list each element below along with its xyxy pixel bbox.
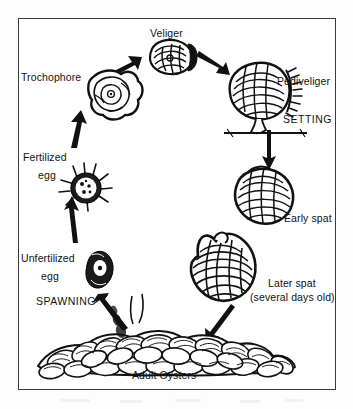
label-spawning: SPAWNING xyxy=(36,295,96,307)
scan-artifact xyxy=(240,400,260,403)
label-trochophore: Trochophore xyxy=(21,71,81,83)
scan-artifact xyxy=(285,399,303,402)
label-setting: SETTING xyxy=(283,113,332,125)
scan-artifact xyxy=(120,400,142,403)
label-fertilized-egg-line1: Fertilized xyxy=(23,151,67,163)
label-early-spat: Early spat xyxy=(284,212,332,224)
scan-artifact xyxy=(175,399,201,402)
label-unfertilized-egg-line1: Unfertilized xyxy=(21,252,75,264)
label-fertilized-egg-line2: egg xyxy=(38,169,56,181)
label-pediveliger: Pediveliger xyxy=(277,75,330,87)
label-unfertilized-egg-line2: egg xyxy=(41,270,59,282)
scan-artifact xyxy=(60,399,90,402)
label-adult-oysters: Adult Oysters xyxy=(132,369,196,381)
label-veliger: Veliger xyxy=(150,27,183,39)
label-later-spat-line2: (several days old) xyxy=(250,291,335,303)
label-later-spat-line1: Later spat xyxy=(268,277,316,289)
figure-canvas: Veliger Trochophore Pediveliger SETTING … xyxy=(0,0,353,409)
